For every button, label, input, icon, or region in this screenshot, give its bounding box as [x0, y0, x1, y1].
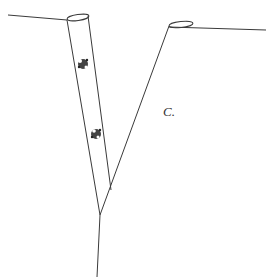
diagram-canvas: C.	[0, 0, 266, 277]
figure-label: C.	[163, 104, 175, 119]
left-stalk-cap	[67, 13, 90, 22]
left-stalk-left-edge	[67, 20, 100, 215]
right-horizontal-line	[169, 27, 266, 30]
right-stalk-line	[100, 26, 169, 215]
left-horizontal-line	[8, 15, 67, 20]
marking-upper	[78, 59, 88, 69]
marking-lower	[91, 129, 101, 139]
main-stem	[97, 215, 100, 277]
